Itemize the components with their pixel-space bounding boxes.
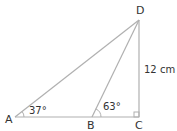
point-label-d: D <box>136 5 144 16</box>
point-label-c: C <box>135 120 143 131</box>
angle-arc-a <box>22 112 24 118</box>
angle-arc-b <box>96 109 101 117</box>
right-angle-marker-c <box>134 112 139 117</box>
angle-label-a: 37° <box>29 106 47 116</box>
side-label-dc: 12 cm <box>144 65 175 75</box>
angle-label-b: 63° <box>103 102 121 112</box>
point-label-a: A <box>5 114 13 125</box>
point-label-b: B <box>87 120 95 131</box>
